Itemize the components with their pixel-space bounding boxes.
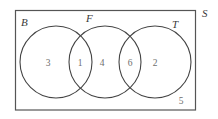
set-label-s-universal: S: [202, 7, 208, 19]
region-count-b-and-f: 1: [78, 58, 83, 68]
region-count-f-only: 4: [100, 58, 105, 68]
region-count-b-only: 3: [46, 58, 51, 68]
set-label-b: B: [21, 16, 28, 28]
region-count-outside-all: 5: [179, 96, 184, 106]
set-label-f: F: [85, 12, 93, 24]
venn-diagram-figure: B F T S 3 1 4 6 2 5: [0, 0, 218, 119]
venn-diagram-canvas: B F T S 3 1 4 6 2 5: [0, 0, 218, 119]
region-count-t-only: 2: [153, 58, 158, 68]
region-count-f-and-t: 6: [128, 58, 133, 68]
set-label-t: T: [172, 18, 179, 30]
